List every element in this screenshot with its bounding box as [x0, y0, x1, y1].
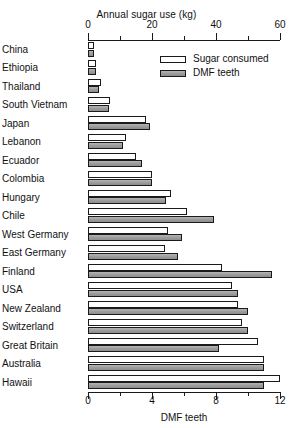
category-label: Australia — [2, 358, 86, 369]
bar-sugar-consumed — [88, 171, 152, 178]
top-minor-tick-mark — [184, 36, 185, 40]
category-label: Lebanon — [2, 136, 86, 147]
chart-row: New Zealand — [88, 300, 280, 318]
chart-row: Australia — [88, 355, 280, 373]
category-label: Hawaii — [2, 377, 86, 388]
category-label: Colombia — [2, 173, 86, 184]
bar-sugar-consumed — [88, 319, 242, 326]
category-label: China — [2, 44, 86, 55]
chart-row: Great Britain — [88, 337, 280, 355]
bar-sugar-consumed — [88, 42, 94, 49]
top-tick-mark — [88, 33, 89, 40]
bottom-axis-title: DMF teeth — [88, 412, 280, 423]
bar-sugar-consumed — [88, 301, 238, 308]
bar-dmf-teeth — [88, 105, 109, 112]
bar-sugar-consumed — [88, 208, 187, 215]
category-label: Switzerland — [2, 321, 86, 332]
bar-dmf-teeth — [88, 345, 219, 352]
category-label: USA — [2, 284, 86, 295]
bottom-tick-label: 4 — [132, 395, 172, 406]
category-label: Japan — [2, 118, 86, 129]
bottom-minor-tick-mark — [120, 392, 121, 396]
chart-row: Chile — [88, 207, 280, 225]
top-tick-mark — [280, 33, 281, 40]
bar-sugar-consumed — [88, 282, 232, 289]
category-label: Chile — [2, 210, 86, 221]
bar-sugar-consumed — [88, 245, 165, 252]
bottom-tick-label: 12 — [260, 395, 293, 406]
bar-dmf-teeth — [88, 197, 166, 204]
bar-dmf-teeth — [88, 271, 272, 278]
bar-dmf-teeth — [88, 179, 152, 186]
top-tick-label: 60 — [260, 19, 293, 30]
chart-row: Japan — [88, 115, 280, 133]
top-minor-tick-mark — [120, 36, 121, 40]
top-tick-label: 20 — [132, 19, 172, 30]
chart-row: Hungary — [88, 189, 280, 207]
category-label: Thailand — [2, 81, 86, 92]
bar-sugar-consumed — [88, 227, 168, 234]
bottom-tick-label: 8 — [196, 395, 236, 406]
chart-row: Thailand — [88, 78, 280, 96]
bottom-minor-tick-mark — [184, 392, 185, 396]
bar-sugar-consumed — [88, 79, 101, 86]
category-label: Hungary — [2, 192, 86, 203]
chart-row: Lebanon — [88, 133, 280, 151]
chart-row: Ecuador — [88, 152, 280, 170]
category-label: Ethiopia — [2, 62, 86, 73]
category-label: West Germany — [2, 229, 86, 240]
bar-sugar-consumed — [88, 264, 222, 271]
chart-row: East Germany — [88, 244, 280, 262]
top-tick-mark — [152, 33, 153, 40]
chart-row: Hawaii — [88, 374, 280, 392]
bar-dmf-teeth — [88, 382, 264, 389]
bar-dmf-teeth — [88, 290, 238, 297]
top-tick-label: 0 — [68, 19, 108, 30]
top-minor-tick-mark — [248, 36, 249, 40]
bar-dmf-teeth — [88, 308, 248, 315]
bar-dmf-teeth — [88, 327, 248, 334]
bar-dmf-teeth — [88, 253, 178, 260]
bar-dmf-teeth — [88, 216, 214, 223]
bar-sugar-consumed — [88, 356, 264, 363]
bar-sugar-consumed — [88, 97, 110, 104]
bar-dmf-teeth — [88, 234, 182, 241]
bar-dmf-teeth — [88, 160, 142, 167]
chart-row: Colombia — [88, 170, 280, 188]
top-tick-mark — [216, 33, 217, 40]
plot-area: ChinaEthiopiaThailandSouth VietnamJapanL… — [88, 41, 280, 392]
category-label: New Zealand — [2, 303, 86, 314]
bar-dmf-teeth — [88, 364, 264, 371]
category-label: East Germany — [2, 247, 86, 258]
chart-row: Switzerland — [88, 318, 280, 336]
bottom-tick-label: 0 — [68, 395, 108, 406]
bar-dmf-teeth — [88, 86, 99, 93]
legend-label-dmf: DMF teeth — [193, 67, 240, 78]
legend-swatch-sugar-icon — [160, 56, 186, 63]
category-label: South Vietnam — [2, 99, 86, 110]
bar-sugar-consumed — [88, 134, 126, 141]
bar-sugar-consumed — [88, 116, 146, 123]
legend-swatch-dmf-icon — [160, 70, 186, 77]
bar-dmf-teeth — [88, 123, 150, 130]
bar-dmf-teeth — [88, 142, 123, 149]
top-tick-label: 40 — [196, 19, 236, 30]
category-label: Great Britain — [2, 340, 86, 351]
bar-sugar-consumed — [88, 375, 280, 382]
bar-sugar-consumed — [88, 60, 96, 67]
bar-sugar-consumed — [88, 338, 258, 345]
chart-row: West Germany — [88, 226, 280, 244]
bar-sugar-consumed — [88, 190, 171, 197]
chart-row: South Vietnam — [88, 96, 280, 114]
bottom-minor-tick-mark — [248, 392, 249, 396]
legend-label-sugar: Sugar consumed — [193, 53, 269, 64]
bar-dmf-teeth — [88, 68, 96, 75]
category-label: Finland — [2, 266, 86, 277]
category-label: Ecuador — [2, 155, 86, 166]
bar-sugar-consumed — [88, 153, 136, 160]
chart-row: Finland — [88, 263, 280, 281]
chart-row: USA — [88, 281, 280, 299]
bar-dmf-teeth — [88, 50, 94, 57]
sugar-vs-dmf-teeth-chart: Annual sugar use (kg) 0204060 04812 Chin… — [0, 0, 293, 428]
